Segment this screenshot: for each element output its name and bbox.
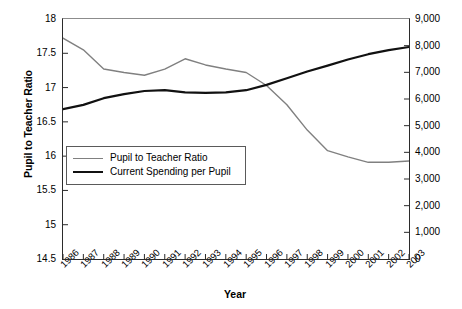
legend-label: Pupil to Teacher Ratio bbox=[110, 152, 208, 164]
chart-legend: Pupil to Teacher Ratio Current Spending … bbox=[66, 146, 246, 185]
legend-item-current-spending-per-pupil: Current Spending per Pupil bbox=[73, 165, 239, 179]
legend-line-icon-gray bbox=[73, 158, 103, 159]
plot-lines bbox=[63, 19, 409, 259]
plot-area bbox=[62, 18, 410, 260]
legend-item-pupil-to-teacher-ratio: Pupil to Teacher Ratio bbox=[73, 151, 239, 165]
legend-label: Current Spending per Pupil bbox=[110, 166, 231, 178]
legend-line-icon-black bbox=[73, 171, 103, 173]
chart-container: Pupil to Teacher Ratio Year 1817.51716.5… bbox=[0, 0, 462, 309]
series-line bbox=[63, 47, 409, 109]
